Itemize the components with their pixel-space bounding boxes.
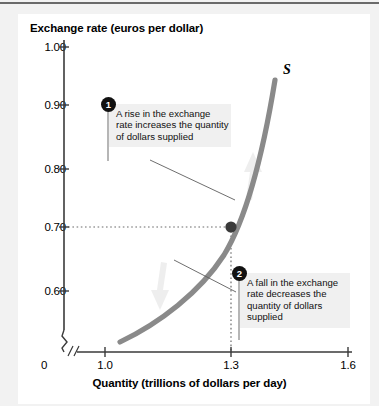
x-axis-break-icon — [68, 346, 79, 356]
marked-point — [225, 221, 236, 232]
y-axis-break-icon — [62, 330, 67, 352]
annotation-1-line-1: A rise in the exchange — [116, 108, 225, 119]
annotation-2-line-3: quantity of dollars — [247, 300, 344, 311]
annotation-2-line-4: supplied — [247, 311, 344, 322]
annotation-1-line-3: of dollars supplied — [116, 131, 225, 142]
annotation-2-line-2: rate decreases the — [247, 288, 344, 299]
annotation-callout-1: A rise in the exchange rate increases th… — [109, 104, 231, 147]
annotation-1-line-2: rate increases the quantity — [116, 119, 225, 130]
motion-arrow-down-icon — [151, 262, 169, 310]
callout-2-leader-line — [174, 260, 236, 292]
callout-1-leader-line — [150, 160, 235, 200]
supply-curve-label: S — [283, 62, 291, 78]
annotation-2-line-1: A fall in the exchange — [247, 277, 344, 288]
annotation-badge-1: 1 — [101, 97, 116, 112]
annotation-badge-2: 2 — [232, 266, 247, 281]
chart-plot-area — [0, 0, 379, 406]
annotation-callout-2: A fall in the exchange rate decreases th… — [240, 273, 350, 328]
